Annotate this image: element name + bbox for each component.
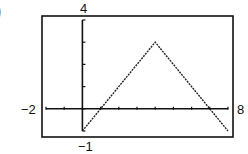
axes: [46, 20, 228, 131]
function-line: [82, 42, 228, 131]
ymax-label: 4: [80, 2, 87, 15]
viewing-window-frame: [42, 16, 233, 137]
graph-window: [0, 0, 248, 154]
xmin-label: −2: [21, 103, 36, 116]
ymin-label: −1: [78, 140, 93, 153]
xmax-label: 8: [237, 103, 244, 116]
